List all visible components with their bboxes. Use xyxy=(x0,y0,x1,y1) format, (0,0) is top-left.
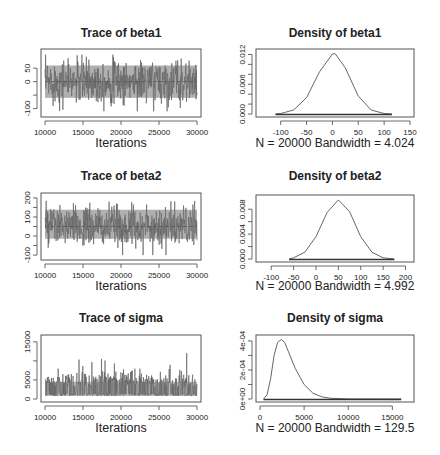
x-axis: 050001000015000 xyxy=(258,406,404,422)
trace-sigma-panel: Trace of sigmaIterations1000015000200002… xyxy=(23,311,209,435)
x-tick-label: 15000 xyxy=(72,271,95,280)
y-tick-label: 0 xyxy=(23,396,32,401)
x-tick-label: 25000 xyxy=(148,413,171,422)
trace-beta1-panel: Trace of beta1Iterations1000015000200002… xyxy=(23,26,209,150)
y-tick-label: 0 xyxy=(23,233,32,238)
y-tick-label: 0.008 xyxy=(238,199,247,220)
x-tick-label: -100 xyxy=(263,273,280,282)
y-axis: 0500015000 xyxy=(23,330,37,401)
panel-title: Density of sigma xyxy=(287,311,383,325)
plot-data xyxy=(45,201,197,255)
x-tick-label: 0 xyxy=(330,128,335,137)
x-tick-label: 5000 xyxy=(295,413,313,422)
plot-frame xyxy=(256,195,414,262)
x-tick-label: 30000 xyxy=(186,128,209,137)
x-tick-label: 20000 xyxy=(110,128,133,137)
y-axis: 0.0000.0060.012 xyxy=(238,44,252,124)
x-tick-label: 150 xyxy=(403,128,417,137)
x-tick-label: 50 xyxy=(354,128,363,137)
x-tick-label: 150 xyxy=(376,273,390,282)
x-axis: 1000015000200002500030000 xyxy=(34,121,209,137)
x-tick-label: 10000 xyxy=(34,413,57,422)
y-tick-label: 50 xyxy=(23,63,32,72)
x-axis-label: Iterations xyxy=(95,279,146,293)
y-tick-label: 0.012 xyxy=(238,44,247,65)
x-axis: -100-50050100150 xyxy=(273,121,418,137)
x-tick-label: 0 xyxy=(314,273,319,282)
x-tick-label: 10000 xyxy=(34,271,57,280)
y-tick-label: 15000 xyxy=(23,330,32,353)
y-tick-label: 0.006 xyxy=(238,74,247,95)
y-axis: -100050 xyxy=(23,63,37,116)
x-tick-label: -50 xyxy=(301,128,313,137)
y-tick-label: 0e+00 xyxy=(238,387,247,410)
y-axis: 0e+002e-044e-04 xyxy=(238,330,252,410)
y-tick-label: 200 xyxy=(23,191,32,205)
panel-title: Trace of beta2 xyxy=(81,169,162,183)
plot-data xyxy=(45,353,197,396)
y-tick-label: 0.000 xyxy=(238,248,247,269)
y-tick-label: 0 xyxy=(23,79,32,84)
x-axis: 1000015000200002500030000 xyxy=(34,264,209,280)
trace-beta2-panel: Trace of beta2Iterations1000015000200002… xyxy=(23,169,209,293)
y-axis: 0.0000.0040.008 xyxy=(238,199,252,269)
x-axis: 1000015000200002500030000 xyxy=(34,406,209,422)
y-tick-label: 0.004 xyxy=(238,224,247,245)
x-tick-label: 10000 xyxy=(337,413,360,422)
x-tick-label: 30000 xyxy=(186,413,209,422)
x-axis-label: Iterations xyxy=(95,136,146,150)
mcmc-diagnostic-figure: Trace of beta1Iterations1000015000200002… xyxy=(0,0,440,455)
plot-data xyxy=(276,54,392,115)
plot-data xyxy=(264,340,402,400)
x-tick-label: 15000 xyxy=(72,128,95,137)
plot-frame xyxy=(256,335,414,402)
x-tick-label: -50 xyxy=(288,273,300,282)
x-tick-label: 15000 xyxy=(381,413,404,422)
x-tick-label: -100 xyxy=(273,128,290,137)
y-tick-label: 0.000 xyxy=(238,103,247,124)
x-tick-label: 15000 xyxy=(72,413,95,422)
panel-title: Trace of beta1 xyxy=(81,26,162,40)
plot-data xyxy=(45,55,197,112)
x-tick-label: 10000 xyxy=(34,128,57,137)
x-tick-label: 30000 xyxy=(186,271,209,280)
x-tick-label: 100 xyxy=(354,273,368,282)
density-beta2-panel: Density of beta2N = 20000 Bandwidth = 4.… xyxy=(238,169,415,293)
y-tick-label: 2e-04 xyxy=(238,359,247,380)
y-tick-label: -100 xyxy=(23,247,32,264)
density-beta1-panel: Density of beta1N = 20000 Bandwidth = 4.… xyxy=(238,26,417,150)
panel-title: Trace of sigma xyxy=(79,311,163,325)
panel-title: Density of beta2 xyxy=(289,169,382,183)
x-tick-label: 100 xyxy=(377,128,391,137)
y-tick-label: 5000 xyxy=(23,370,32,388)
y-axis: -1000100200 xyxy=(23,191,37,263)
plot-data xyxy=(289,200,394,260)
x-axis-label: N = 20000 Bandwidth = 4.024 xyxy=(256,136,415,150)
x-tick-label: 50 xyxy=(334,273,343,282)
y-tick-label: -100 xyxy=(23,100,32,117)
x-tick-label: 20000 xyxy=(110,413,133,422)
x-tick-label: 200 xyxy=(399,273,413,282)
panel-title: Density of beta1 xyxy=(289,26,382,40)
x-axis-label: Iterations xyxy=(95,421,146,435)
y-tick-label: 100 xyxy=(23,210,32,224)
x-axis-label: N = 20000 Bandwidth = 129.5 xyxy=(256,421,415,435)
x-tick-label: 25000 xyxy=(148,128,171,137)
y-tick-label: 4e-04 xyxy=(238,330,247,351)
x-tick-label: 25000 xyxy=(148,271,171,280)
x-tick-label: 20000 xyxy=(110,271,133,280)
x-tick-label: 0 xyxy=(258,413,263,422)
plot-frame xyxy=(256,49,414,117)
figure-canvas: Trace of beta1Iterations1000015000200002… xyxy=(0,0,440,455)
density-sigma-panel: Density of sigmaN = 20000 Bandwidth = 12… xyxy=(238,311,415,435)
